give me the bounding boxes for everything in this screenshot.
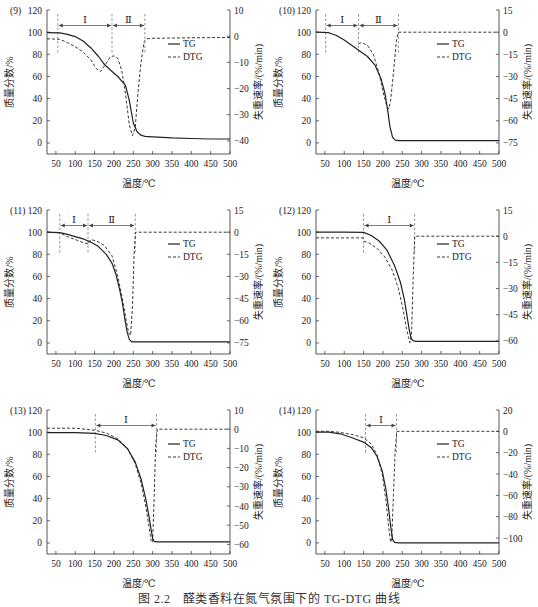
y2-tick-label: −75 [503,138,518,148]
y2-tick-label: −45 [234,294,249,304]
x-tick-label: 300 [145,559,160,569]
y2-tick-label: −40 [503,470,518,480]
legend-label: TG [183,439,196,449]
x-tick-label: 450 [473,359,488,369]
dtg-curve [316,431,499,542]
y2-axis-label: 失重速率/(%/min) [252,444,265,520]
x-tick-label: 350 [434,159,449,169]
x-tick-label: 500 [223,159,238,169]
y2-axis-label: 失重速率/(%/min) [252,44,265,120]
x-tick-label: 400 [184,159,199,169]
chart-panel-12: 5010015020025030035040045050002040608010… [269,200,538,400]
y2-tick-label: 0 [234,228,239,238]
figure-caption: 图 2.2 醛类香料在氮气氛围下的 TG-DTG 曲线 [0,589,538,607]
y2-tick-label: 15 [234,206,244,216]
y-tick-label: 0 [37,138,42,148]
chart-panel-10: 5010015020025030035040045050002040608010… [269,0,538,200]
chart-svg: 5010015020025030035040045050002040608010… [0,0,269,200]
x-tick-label: 200 [107,359,122,369]
x-tick-label: 450 [473,559,488,569]
tg-curve [47,433,230,542]
x-tick-label: 400 [453,159,468,169]
stage-label: Ⅰ [387,214,391,225]
x-tick-label: 300 [145,159,160,169]
y2-tick-label: −45 [503,94,518,104]
y-tick-label: 60 [302,72,312,82]
y2-tick-label: 0 [503,28,508,38]
panel-label: (11) [10,206,25,217]
y-tick-label: 20 [302,516,312,526]
x-tick-label: 350 [165,359,180,369]
y-tick-label: 80 [302,50,312,60]
x-tick-label: 300 [414,559,429,569]
y-tick-label: 20 [33,316,43,326]
chart-panel-11: 5010015020025030035040045050002040608010… [0,200,269,400]
y-tick-label: 100 [28,428,43,438]
y-tick-label: 100 [28,28,43,38]
stage-label: Ⅱ [108,214,115,225]
stage-label: Ⅰ [124,414,128,425]
y-tick-label: 20 [33,516,43,526]
x-tick-label: 350 [165,559,180,569]
y2-tick-label: −80 [503,512,518,522]
x-axis-label: 温度/℃ [391,577,425,589]
x-tick-label: 100 [337,159,352,169]
x-tick-label: 50 [51,159,61,169]
stage-label: Ⅱ [375,14,382,25]
y2-tick-label: −20 [503,448,518,458]
y-tick-label: 120 [297,206,312,216]
y-tick-label: 40 [302,294,312,304]
y-tick-label: 40 [33,94,43,104]
y-tick-label: 0 [37,338,42,348]
chart-panel-9: 5010015020025030035040045050002040608010… [0,0,269,200]
y2-tick-label: −60 [503,336,518,346]
y2-tick-label: −10 [234,444,249,454]
tg-curve [316,32,499,141]
y2-tick-label: −15 [503,50,518,60]
y2-tick-label: −60 [503,116,518,126]
tg-curve [316,232,499,341]
chart-svg: 5010015020025030035040045050002040608010… [269,400,538,600]
y-tick-label: 80 [302,250,312,260]
x-tick-label: 200 [107,559,122,569]
dtg-curve [47,38,230,136]
tg-curve [47,232,230,342]
x-tick-label: 350 [434,359,449,369]
y2-tick-label: −30 [503,284,518,294]
panel-label: (14) [279,406,295,417]
y-axis-label: 质量分数/% [272,456,284,507]
y-tick-label: 120 [297,6,312,16]
y-axis-label: 质量分数/% [3,56,15,107]
x-tick-label: 200 [376,559,391,569]
x-axis-label: 温度/℃ [122,377,156,389]
x-tick-label: 300 [414,159,429,169]
x-tick-label: 200 [107,159,122,169]
y2-axis-label: 失重速率/(%/min) [521,444,534,520]
y-tick-label: 40 [302,94,312,104]
x-tick-label: 300 [145,359,160,369]
y2-tick-label: −30 [234,110,249,120]
x-tick-label: 50 [320,159,330,169]
x-tick-label: 500 [492,159,507,169]
y2-tick-label: −15 [234,250,249,260]
x-tick-label: 350 [434,559,449,569]
x-tick-label: 500 [223,559,238,569]
x-tick-label: 500 [223,359,238,369]
dtg-curve [47,428,230,542]
y-tick-label: 20 [33,116,43,126]
y2-tick-label: −75 [234,338,249,348]
y-tick-label: 100 [297,28,312,38]
stage-label: Ⅰ [83,14,87,25]
stage-label: Ⅰ [379,414,383,425]
x-tick-label: 500 [492,559,507,569]
y-tick-label: 0 [37,538,42,548]
x-tick-label: 450 [204,359,219,369]
x-tick-label: 350 [165,159,180,169]
y-tick-label: 80 [33,250,43,260]
legend-label: TG [183,239,196,249]
dtg-curve [359,32,499,109]
y-tick-label: 0 [306,538,311,548]
y-tick-label: 60 [302,272,312,282]
y-tick-label: 80 [302,450,312,460]
y2-tick-label: −60 [234,540,249,550]
